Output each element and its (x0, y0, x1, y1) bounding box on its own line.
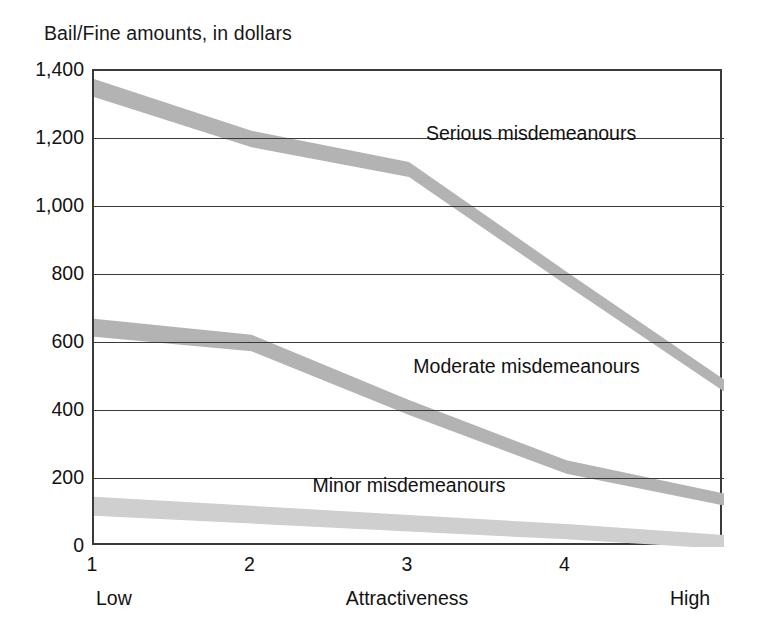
x-tick-label: 3 (402, 553, 413, 576)
x-axis-high-label: High (670, 587, 710, 610)
x-axis-low-label: Low (96, 587, 132, 610)
series-annotation: Moderate misdemeanours (413, 355, 640, 378)
x-tick-label: 2 (244, 553, 255, 576)
x-axis-labels: 1234LowHighAttractiveness (0, 0, 760, 634)
x-tick-label: 4 (559, 553, 570, 576)
series-annotation: Minor misdemeanours (313, 474, 506, 497)
x-tick-label: 1 (87, 553, 98, 576)
x-axis-title: Attractiveness (346, 587, 468, 610)
series-annotation: Serious misdemeanours (426, 122, 636, 145)
chart-figure: Bail/Fine amounts, in dollars 0200400600… (0, 0, 760, 634)
